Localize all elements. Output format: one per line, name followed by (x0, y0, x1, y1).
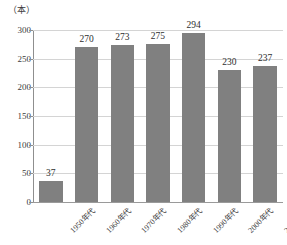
bar-value-label: 230 (212, 57, 248, 67)
plot-area: 37270273275294230237 (33, 30, 283, 202)
bar (39, 181, 63, 202)
y-axis-tick-label: 250 (5, 55, 31, 64)
bar (111, 45, 135, 202)
y-axis-tick-label: 0 (5, 198, 31, 207)
bar (253, 66, 277, 202)
x-axis-tick-label: 2000年代 (247, 206, 276, 235)
x-axis-tick-label: 1950年代 (68, 206, 97, 235)
bar (146, 44, 170, 202)
y-axis-tick-label: 150 (5, 112, 31, 121)
x-axis-tick-label: 1960年代 (104, 206, 133, 235)
y-axis-tick-mark (29, 145, 33, 146)
y-axis-tick-label: 300 (5, 26, 31, 35)
bar (182, 33, 206, 202)
y-axis-tick-label: 200 (5, 83, 31, 92)
y-axis-unit-label: （本） (8, 5, 35, 16)
bar-value-label: 37 (33, 168, 69, 178)
x-axis-tick-label: 1970年代 (140, 206, 169, 235)
gridline (33, 202, 283, 203)
bar-value-label: 294 (176, 20, 212, 30)
x-axis-tick-label: 1980年代 (175, 206, 204, 235)
bar-value-label: 237 (247, 53, 283, 63)
y-axis-tick-label: 100 (5, 141, 31, 150)
y-axis-tick-mark (29, 116, 33, 117)
y-axis-tick-label: 50 (5, 169, 31, 178)
bar (218, 70, 242, 202)
y-axis-tick-mark (29, 87, 33, 88)
bar (75, 47, 99, 202)
y-axis-tick-mark (29, 59, 33, 60)
bar-chart: （本） 37270273275294230237 050100150200250… (0, 0, 287, 245)
bar-value-label: 275 (140, 31, 176, 41)
x-axis-tick-label: 1990年代 (211, 206, 240, 235)
bar-value-label: 270 (69, 34, 105, 44)
y-axis-tick-mark (29, 30, 33, 31)
y-axis-tick-mark (29, 202, 33, 203)
y-axis-tick-mark (29, 173, 33, 174)
x-axis-tick-label: 2010年代 (283, 206, 287, 235)
bar-value-label: 273 (105, 32, 141, 42)
